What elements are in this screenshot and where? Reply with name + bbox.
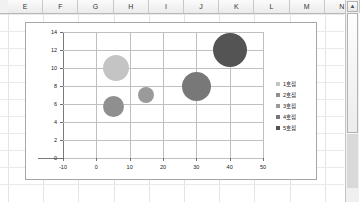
bubble-data-point[interactable] (103, 55, 129, 81)
bubble-data-point[interactable] (213, 33, 247, 67)
y-axis-tick-label: 10 (35, 65, 57, 71)
legend-marker-icon (276, 104, 280, 108)
x-axis-tick-label: 40 (218, 164, 242, 170)
y-axis-tick-mark (60, 32, 63, 33)
legend-item-label: 4호점 (283, 112, 296, 123)
y-axis-tick-label: 2 (35, 137, 57, 143)
x-axis-tick-mark (263, 158, 264, 161)
column-header-f[interactable]: F (43, 0, 78, 13)
scrollbar-thumb[interactable] (347, 13, 358, 133)
column-header-l[interactable]: L (254, 0, 289, 13)
legend-item[interactable]: 4호점 (276, 112, 320, 123)
bubble-chart-object[interactable]: 02468101214 -1001020304050 1호점2호점3호점4호점5… (25, 22, 317, 180)
scrollbar-track-lower[interactable] (347, 134, 358, 188)
x-axis-tick-label: 0 (84, 164, 108, 170)
scroll-up-arrow-icon[interactable]: ▲ (347, 1, 358, 12)
bubble-data-point[interactable] (182, 72, 211, 101)
x-axis-tick-label: 20 (151, 164, 175, 170)
chart-gridline-vertical (130, 32, 131, 158)
column-header-k[interactable]: K (219, 0, 254, 13)
column-header-e[interactable]: E (8, 0, 43, 13)
chart-gridline-vertical (163, 32, 164, 158)
grid-line-vertical (325, 14, 326, 202)
x-axis-tick-mark (163, 158, 164, 161)
vertical-scrollbar[interactable]: ▲ (345, 0, 359, 202)
chart-gridline-vertical (96, 32, 97, 158)
legend-marker-icon (276, 82, 280, 86)
x-axis-tick-label: 50 (251, 164, 275, 170)
y-axis-tick-label: 14 (35, 29, 57, 35)
x-axis-tick-mark (196, 158, 197, 161)
y-axis-tick-mark (60, 86, 63, 87)
y-axis-tick-label: 6 (35, 101, 57, 107)
y-axis-tick-label: 4 (35, 119, 57, 125)
legend-item-label: 2호점 (283, 90, 296, 101)
legend-item-label: 3호점 (283, 101, 296, 112)
y-axis-tick-mark (60, 104, 63, 105)
column-header-j[interactable]: J (184, 0, 219, 13)
column-header-row: EFGHIJKLMN (0, 0, 359, 14)
grid-line-vertical (8, 14, 9, 202)
grid-line-horizontal (0, 184, 344, 185)
chart-legend[interactable]: 1호점2호점3호점4호점5호점 (276, 79, 320, 134)
y-axis-tick-label: 12 (35, 47, 57, 53)
column-header-m[interactable]: M (290, 0, 325, 13)
legend-item[interactable]: 1호점 (276, 79, 320, 90)
legend-item-label: 1호점 (283, 79, 296, 90)
legend-marker-icon (276, 115, 280, 119)
column-header-h[interactable]: H (114, 0, 149, 13)
x-axis-tick-mark (130, 158, 131, 161)
x-axis-tick-mark (96, 158, 97, 161)
y-axis-tick-label: 8 (35, 83, 57, 89)
legend-marker-icon (276, 126, 280, 130)
column-header-g[interactable]: G (78, 0, 113, 13)
bubble-data-point[interactable] (103, 96, 124, 117)
chart-gridline-vertical (263, 32, 264, 158)
y-axis-tick-mark (60, 122, 63, 123)
legend-item-label: 5호점 (283, 123, 296, 134)
column-header-i[interactable]: I (149, 0, 184, 13)
x-axis-tick-label: 30 (184, 164, 208, 170)
y-axis-tick-label: 0 (35, 155, 57, 161)
bubble-data-point[interactable] (138, 87, 154, 103)
legend-item[interactable]: 5호점 (276, 123, 320, 134)
x-axis-tick-mark (63, 158, 64, 161)
legend-item[interactable]: 2호점 (276, 90, 320, 101)
x-axis-tick-mark (230, 158, 231, 161)
grid-line-horizontal (0, 14, 344, 15)
y-axis-tick-mark (60, 140, 63, 141)
x-axis-tick-label: -10 (51, 164, 75, 170)
y-axis-tick-mark (60, 50, 63, 51)
x-axis-tick-label: 10 (118, 164, 142, 170)
y-axis-tick-mark (60, 68, 63, 69)
legend-marker-icon (276, 93, 280, 97)
legend-item[interactable]: 3호점 (276, 101, 320, 112)
